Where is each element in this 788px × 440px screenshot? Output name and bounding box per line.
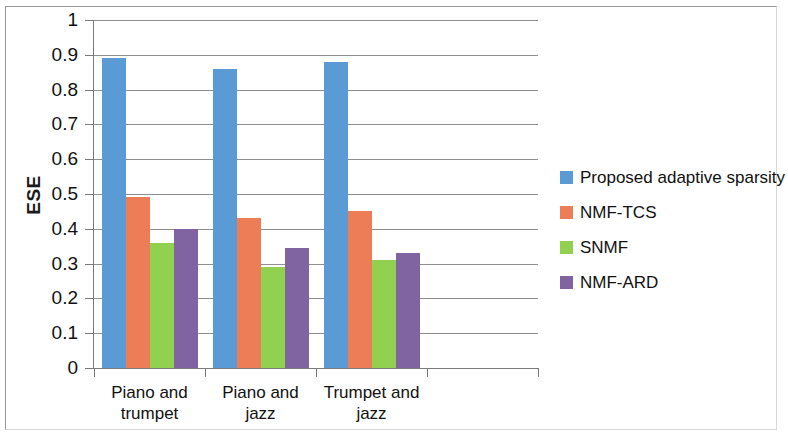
legend-item[interactable]: SNMF [560,230,785,265]
x-axis-category-label-line: trumpet [90,403,210,424]
legend-label: NMF-TCS [580,203,656,223]
y-axis-tick-label: 1 [8,10,78,29]
y-axis-tick-label: 0.1 [8,323,78,342]
bar [150,243,174,368]
y-axis-tick-label: 0 [8,358,78,377]
y-axis-tick-label: 0.8 [8,80,78,99]
legend-swatch-icon [560,276,573,289]
gridline [94,229,538,230]
bar [237,218,261,368]
gridline [94,90,538,91]
x-axis-tick [538,368,539,377]
legend-item[interactable]: NMF-ARD [560,265,785,300]
x-axis-tick [427,368,428,377]
y-axis-tick-label: 0.4 [8,219,78,238]
y-axis-tick-label: 0.3 [8,254,78,273]
bar [285,248,309,368]
bar [372,260,396,368]
plot-area [94,20,538,368]
x-axis-category-label-line: Piano and [90,382,210,403]
x-axis-tick [205,368,206,377]
chart-figure: ESE 00.10.20.30.40.50.60.70.80.91 Piano … [0,0,788,440]
gridline [94,159,538,160]
x-axis-category-label-line: jazz [312,403,432,424]
legend-label: NMF-ARD [580,273,658,293]
x-axis-category-label-line: Trumpet and [312,382,432,403]
legend-swatch-icon [560,171,573,184]
gridline [94,20,538,21]
x-axis-category-label: Piano andjazz [201,382,321,425]
y-axis-tick-label: 0.7 [8,114,78,133]
legend-swatch-icon [560,241,573,254]
bar [324,62,348,368]
legend-label: SNMF [580,238,628,258]
bar [396,253,420,368]
gridline [94,55,538,56]
x-axis-category-label: Piano andtrumpet [90,382,210,425]
legend-label: Proposed adaptive sparsity [580,168,785,188]
gridline [94,194,538,195]
bar [174,229,198,368]
bar [348,211,372,368]
x-axis-tick [316,368,317,377]
y-axis-tick-label: 0.6 [8,149,78,168]
legend-swatch-icon [560,206,573,219]
bar [213,69,237,368]
x-axis-category-label: Trumpet andjazz [312,382,432,425]
bar [261,267,285,368]
y-axis-tick-label: 0.5 [8,184,78,203]
x-axis-tick [94,368,95,377]
x-axis-category-label-line: Piano and [201,382,321,403]
y-axis-tick-label: 0.9 [8,45,78,64]
y-axis-tick-label: 0.2 [8,288,78,307]
legend-item[interactable]: NMF-TCS [560,195,785,230]
chart-legend: Proposed adaptive sparsityNMF-TCSSNMFNMF… [560,160,785,300]
bar [126,197,150,368]
legend-item[interactable]: Proposed adaptive sparsity [560,160,785,195]
bar [102,58,126,368]
gridline [94,124,538,125]
x-axis-category-label-line: jazz [201,403,321,424]
